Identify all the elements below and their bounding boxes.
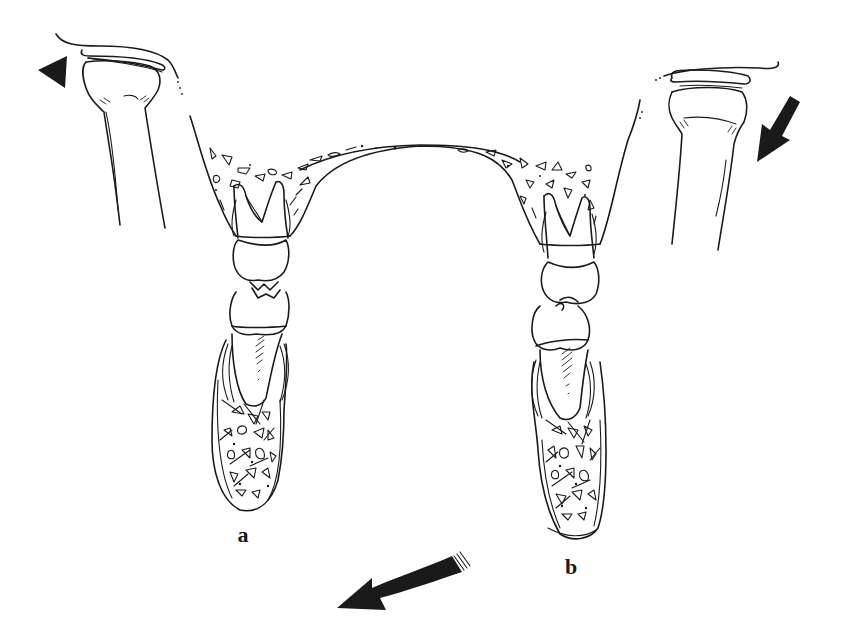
right-condyle [639, 62, 778, 250]
right-condyle-arrow-icon [757, 96, 800, 162]
label-a: a [238, 522, 249, 547]
right-alveolar-bone-pattern [458, 149, 596, 224]
label-b: b [565, 554, 577, 579]
left-condyle-arrow-icon [38, 56, 67, 88]
left-lower-bone-pattern [220, 400, 276, 498]
right-lower-bone-pattern [546, 420, 600, 520]
left-condyle [56, 34, 178, 228]
upper-arch [190, 100, 640, 246]
left-tooth-column [212, 182, 290, 511]
dental-cross-section-diagram: a b [0, 0, 841, 641]
left-alveolar-bone-pattern [210, 145, 396, 215]
left-dotted-contour [177, 81, 183, 95]
mandible-shift-arrow-icon [337, 552, 470, 610]
